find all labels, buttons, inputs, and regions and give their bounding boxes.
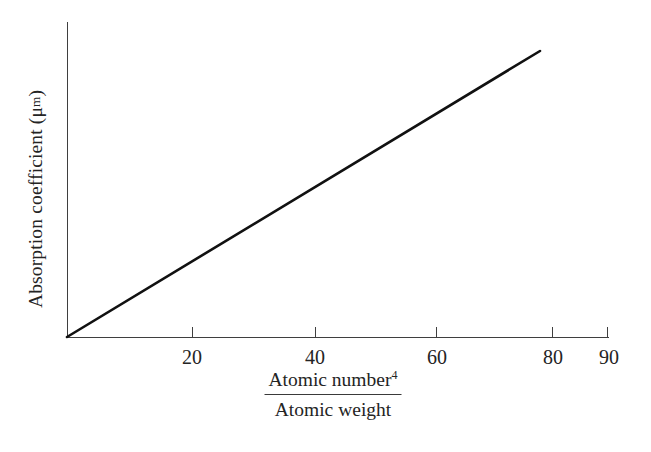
fraction-bar [265, 394, 402, 395]
x-tick-label-60: 60 [402, 344, 472, 370]
x-tick-label-90: 90 [574, 344, 644, 370]
y-axis-title: Absorption coefficient (μm) [19, 19, 53, 379]
mu-symbol: μ [25, 107, 47, 118]
x-axis-title-denominator: Atomic weight [265, 398, 402, 421]
x-axis-title: Atomic number4 Atomic weight [265, 368, 402, 421]
y-axis-title-close: ) [25, 90, 47, 97]
y-axis-title-text: Absorption coefficient ( [25, 117, 47, 308]
x-tick-label-40: 40 [280, 344, 350, 370]
x-axis-title-numerator-text: Atomic number [269, 369, 392, 390]
x-axis-title-numerator: Atomic number4 [265, 368, 402, 392]
figure-container: Absorption coefficient (μm) 20 40 60 80 … [0, 0, 651, 452]
x-tick-label-20: 20 [157, 344, 227, 370]
data-line-absorption [67, 51, 540, 337]
x-axis-ticks [193, 327, 608, 337]
mu-subscript: m [28, 97, 44, 107]
x-axis-title-exponent: 4 [391, 368, 397, 382]
